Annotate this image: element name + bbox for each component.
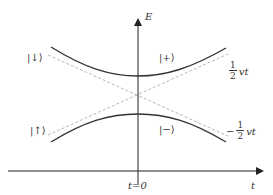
- asymptote-lower-numerator: 1: [236, 121, 244, 131]
- asymptote-label-lower: − 1 2 vt: [226, 121, 256, 141]
- time-axis-label: t: [251, 181, 255, 191]
- asymptote-upper-numerator: 1: [229, 61, 237, 71]
- state-label-down: |↓⟩: [27, 53, 43, 63]
- state-label-minus: |−⟩: [159, 125, 175, 135]
- state-label-up: |↑⟩: [30, 126, 46, 136]
- origin-label: t=0: [128, 181, 147, 191]
- asymptote-lower-denominator: 2: [237, 131, 243, 141]
- energy-level-diagram: [0, 0, 273, 195]
- asymptote-upper-variable: vt: [239, 66, 249, 77]
- asymptote-lower-sign: −: [226, 126, 234, 137]
- state-label-plus: |+⟩: [159, 53, 175, 63]
- asymptote-upper-denominator: 2: [230, 71, 236, 81]
- energy-axis-label: E: [145, 12, 152, 22]
- asymptote-lower-variable: vt: [246, 126, 256, 137]
- asymptote-label-upper: 1 2 vt: [227, 61, 248, 81]
